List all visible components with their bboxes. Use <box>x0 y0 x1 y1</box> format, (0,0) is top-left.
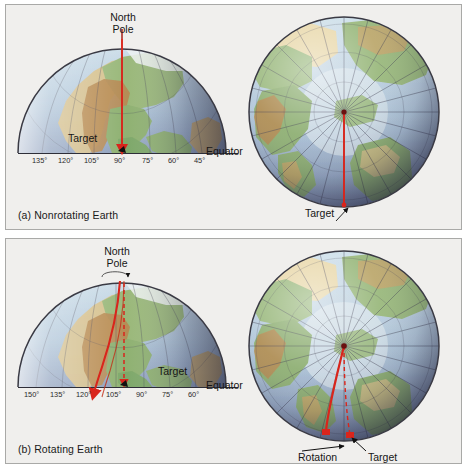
target-label-a: Target <box>68 133 97 145</box>
north-pole-label-b-line2: Pole <box>106 257 127 269</box>
north-pole-label-b-line1: North <box>104 245 130 257</box>
landing-marker-polar-b <box>322 429 330 435</box>
longitude-tick-135-b: 135° <box>50 390 65 399</box>
panel-a-caption: (a) Nonrotating Earth <box>18 209 118 221</box>
panel-rotating-earth: North Pole Target Equator Rotation Targe… <box>5 238 462 464</box>
north-pole-label-b: North Pole <box>88 246 146 270</box>
target-marker-polar-b <box>346 432 354 438</box>
longitude-tick-105: 105° <box>84 156 99 165</box>
longitude-tick-75-b: 75° <box>162 390 173 399</box>
longitude-tick-60-b: 60° <box>188 390 199 399</box>
equator-label-a: Equator <box>206 146 243 158</box>
longitude-tick-45: 45° <box>194 156 205 165</box>
panel-nonrotating-earth: North Pole Target Equator Target 135° 12… <box>5 4 462 230</box>
longitude-tick-120-b: 120° <box>76 390 91 399</box>
panel-b-graphics <box>6 239 461 463</box>
landmass-greenland <box>192 51 228 77</box>
landmass-greenland-b <box>192 285 228 311</box>
panel-a-graphics <box>6 5 461 229</box>
figure-coriolis-effect: North Pole Target Equator Target 135° 12… <box>0 0 467 468</box>
equator-label-b: Equator <box>206 380 243 392</box>
pole-center-a <box>341 109 346 114</box>
north-pole-label-a: North Pole <box>94 12 152 36</box>
longitude-tick-150-b: 150° <box>24 390 39 399</box>
north-pole-label-a-line2: Pole <box>112 23 133 35</box>
target-label-polar-b: Target <box>368 452 397 464</box>
target-label-polar-a: Target <box>305 208 334 220</box>
longitude-tick-105-b: 105° <box>106 390 121 399</box>
panel-b-caption: (b) Rotating Earth <box>18 443 103 455</box>
longitude-tick-90-b: 90° <box>136 390 147 399</box>
longitude-tick-90: 90° <box>114 156 125 165</box>
longitude-tick-135: 135° <box>32 156 47 165</box>
hemisphere-side-view-b <box>16 277 230 399</box>
target-marker-polar-a <box>342 203 347 208</box>
longitude-tick-120: 120° <box>58 156 73 165</box>
longitude-tick-75: 75° <box>142 156 153 165</box>
target-leader-polar-a <box>336 208 348 221</box>
rotation-label-b: Rotation <box>298 452 337 464</box>
north-pole-label-a-line1: North <box>110 11 136 23</box>
longitude-tick-60: 60° <box>168 156 179 165</box>
rotation-arrow-b <box>102 272 128 277</box>
pole-center-b <box>341 343 347 349</box>
target-label-b: Target <box>158 366 187 378</box>
